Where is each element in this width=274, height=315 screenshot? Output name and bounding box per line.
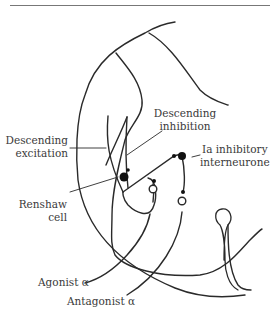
ia-leader — [192, 155, 200, 157]
label-antagonist: Antagonist α — [67, 295, 135, 308]
synapse-antagonist — [181, 190, 185, 194]
label-text: Descending — [0, 134, 68, 147]
desc-inhibition-leader — [127, 131, 162, 155]
ia-interneurone-cell — [178, 152, 186, 160]
renshaw-cell — [120, 173, 129, 182]
descending-cross — [106, 117, 127, 165]
label-descending-excitation: Descending excitation — [0, 134, 68, 160]
antagonist-axon — [127, 212, 182, 295]
label-text: Descending — [145, 107, 225, 120]
label-ia-interneurone: Ia inhibitory — [202, 143, 268, 156]
agonist-motoneurone — [149, 185, 157, 193]
dorsal-horn-outline — [149, 33, 228, 105]
label-text: cell — [0, 211, 67, 224]
antagonist-motoneurone — [178, 197, 186, 205]
agonist-axon — [85, 214, 150, 283]
synapse-agonist — [152, 179, 156, 183]
label-text: excitation — [0, 147, 68, 160]
synapse-ia — [172, 154, 176, 158]
label-ia-interneurone-2: interneurone — [200, 156, 270, 169]
label-text: Renshaw — [0, 198, 67, 211]
central-canal-right — [228, 225, 251, 290]
label-text: inhibition — [145, 120, 225, 133]
synapse-desc — [126, 168, 130, 172]
diagram: Descending inhibition Descending excitat… — [0, 0, 274, 315]
renshaw-label-leader — [70, 177, 118, 192]
label-text: interneurone — [200, 156, 270, 169]
label-agonist: Agonist α — [38, 276, 89, 289]
ia-to-antagonist — [182, 156, 184, 192]
label-text: Ia inhibitory — [202, 143, 268, 156]
label-renshaw-cell: Renshaw cell — [0, 198, 67, 224]
label-descending-inhibition: Descending inhibition — [145, 107, 225, 133]
